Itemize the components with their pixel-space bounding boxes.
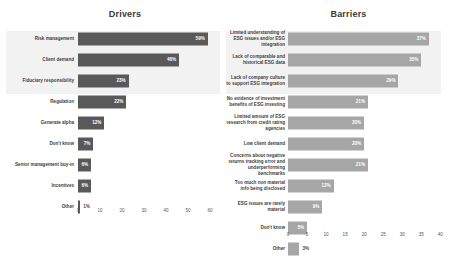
barriers-category-label: Concerns about negative returns tracking… [226,152,285,177]
barriers-chart-title: Barriers [226,9,453,19]
bar-row: Lack of company culture to support ESG i… [226,70,453,91]
bar-row: Incentives6% [0,175,226,196]
bar-track: 35% [288,53,448,66]
drivers-axis-tick: 10 [97,208,102,213]
bar-row: Limited amount of ESG research from cred… [226,112,453,133]
bar-track: 22% [78,95,221,108]
bar-row: Lack of comparable and historical ESG da… [226,49,453,70]
drivers-bar [78,32,208,45]
bar-track: 7% [78,137,221,150]
drivers-bar-value: 6% [82,183,89,188]
bar-track: 6% [78,179,221,192]
barriers-bar-value: 35% [409,57,418,62]
barriers-category-label: ESG issues are rarely material [226,200,285,212]
barriers-axis-tick: 35 [419,232,424,237]
barriers-bar [288,74,398,87]
drivers-category-label: Incentives [0,182,74,188]
bar-track: 6% [78,158,221,171]
bar-row: Don't know7% [0,133,226,154]
barriers-category-label: Lack of comparable and historical ESG da… [226,53,285,65]
barriers-axis-tick: 15 [343,232,348,237]
bar-row: ESG issues are rarely material9% [226,196,453,217]
drivers-bar-value: 6% [82,162,89,167]
drivers-axis-tick: 50 [185,208,190,213]
barriers-bar-value: 20% [352,141,361,146]
bar-track: 46% [78,53,221,66]
drivers-axis-tick: 0 [77,208,80,213]
barriers-axis-tick: 40 [438,232,443,237]
drivers-category-label: Fiduciary responsibility [0,77,74,83]
drivers-bar [78,53,179,66]
drivers-category-label: Client demand [0,56,74,62]
drivers-axis-tick: 30 [141,208,146,213]
barriers-axis-tick: 25 [381,232,386,237]
barriers-bar-value: 29% [386,78,395,83]
bar-track: 29% [288,74,448,87]
chart-panel-barriers: Barriers Limited understanding of ESG is… [226,0,453,260]
barriers-bar-value: 21% [356,162,365,167]
bar-track: 23% [78,74,221,87]
bar-row: Generate alpha12% [0,112,226,133]
bar-row: No evidence of investment benefits of ES… [226,91,453,112]
barriers-axis-tick: 10 [324,232,329,237]
bar-track: 20% [288,137,448,150]
chart-panel-drivers: Drivers Risk management59%Client demand4… [0,0,226,260]
barriers-category-label: Low client demand [226,140,285,146]
bar-row: Concerns about negative returns tracking… [226,154,453,175]
bar-track: 12% [78,116,221,129]
bar-row: Low client demand20% [226,133,453,154]
drivers-category-label: Senior management buy-in [0,161,74,167]
drivers-x-axis: 0102030405060 [78,208,221,222]
bar-row: Fiduciary responsibility23% [0,70,226,91]
barriers-category-label: No evidence of investment benefits of ES… [226,95,285,107]
drivers-axis-tick: 60 [207,208,212,213]
barriers-bar-value: 5% [297,225,304,230]
drivers-category-label: Generate alpha [0,119,74,125]
drivers-bar-value: 46% [167,57,176,62]
barriers-category-label: Other [226,245,285,251]
bar-track: 12% [288,179,448,192]
drivers-bar-value: 59% [196,36,205,41]
bar-track: 59% [78,32,221,45]
barriers-category-label: Limited understanding of ESG issues and/… [226,29,285,48]
barriers-bar-value: 21% [356,99,365,104]
barriers-bar-value: 37% [417,36,426,41]
esg-survey-bar-charts: Drivers Risk management59%Client demand4… [0,0,453,260]
bar-row: Limited understanding of ESG issues and/… [226,28,453,49]
bar-row: Client demand46% [0,49,226,70]
barriers-axis-tick: 5 [306,232,309,237]
barriers-category-label: Too much non material info being disclos… [226,179,285,191]
barriers-bar [288,32,429,45]
drivers-category-label: Risk management [0,35,74,41]
drivers-bar-value: 12% [92,120,101,125]
drivers-chart-title: Drivers [0,9,226,19]
bar-row: Risk management59% [0,28,226,49]
barriers-bar-value: 9% [313,204,320,209]
bar-track: 37% [288,32,448,45]
barriers-bar-value: 3% [302,246,309,251]
drivers-category-label: Other [0,203,74,209]
barriers-bar-value: 20% [352,120,361,125]
barriers-bar-value: 12% [322,183,331,188]
barriers-axis-tick: 20 [362,232,367,237]
drivers-category-label: Don't know [0,140,74,146]
barriers-category-label: Limited amount of ESG research from cred… [226,113,285,132]
drivers-category-label: Regulation [0,98,74,104]
drivers-bar-value: 23% [116,78,125,83]
barriers-axis-tick: 30 [400,232,405,237]
drivers-bar-value: 22% [114,99,123,104]
bar-track: 21% [288,158,448,171]
drivers-axis-tick: 20 [119,208,124,213]
bar-row: Regulation22% [0,91,226,112]
barriers-x-axis: 0510152025303540 [288,232,448,246]
bar-row: Senior management buy-in6% [0,154,226,175]
drivers-axis-tick: 40 [163,208,168,213]
barriers-category-label: Don't know [226,224,285,230]
barriers-category-label: Lack of company culture to support ESG i… [226,74,285,86]
bar-track: 21% [288,95,448,108]
barriers-bar [288,53,421,66]
drivers-bar-value: 7% [84,141,91,146]
bar-track: 20% [288,116,448,129]
bar-track: 9% [288,200,448,213]
barriers-axis-tick: 0 [287,232,290,237]
